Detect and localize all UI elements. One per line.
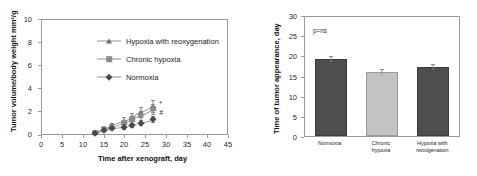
figure-container: Tumor volume/body weight mm³/g 10 8 6 4 … [0,0,477,176]
diamond-marker-icon [109,125,115,131]
error-bar [124,117,125,124]
right-plot-area: p=ns [304,16,460,137]
left-x-tick-30: 30 [156,141,176,149]
series-line-segment [132,112,141,118]
error-bar-cap [329,56,333,57]
error-bar [103,128,104,130]
significance-marker-hash: # [159,109,163,116]
error-bar-cap [139,117,143,118]
error-bar-cap [110,125,114,126]
left-x-tickmark [166,135,167,138]
series-line-segment [112,123,125,128]
error-bar [433,64,434,71]
left-x-tick-10: 10 [73,141,93,149]
error-bar [382,69,383,75]
series-line-segment [112,121,125,126]
left-x-tick-20: 20 [114,141,134,149]
legend-item-chronic-hypoxia: Chronic hypoxia [97,50,219,68]
error-bar-cap [151,116,155,117]
left-x-tick-0: 0 [31,141,51,149]
error-bar-cap [102,128,106,129]
square-marker-icon [130,116,136,122]
error-bar-cap [151,100,155,101]
error-bar-cap [431,64,435,65]
error-bar-cap [130,123,134,124]
left-plot-area: Hypoxia with reoxygenation Chronic hypox… [41,19,228,135]
left-x-tick-25: 25 [135,141,155,149]
left-x-tick-45: 45 [218,141,238,149]
square-marker-icon [121,120,127,126]
series-line-segment [95,129,104,133]
diamond-marker-icon [137,119,143,125]
diamond-marker-icon [92,129,98,135]
error-bar-cap [102,131,106,132]
series-line-segment [95,129,104,133]
triangle-marker-icon [101,127,107,132]
left-x-tick-35: 35 [177,141,197,149]
square-marker-icon [109,124,115,130]
error-bar [111,125,112,129]
error-bar [111,127,112,130]
bar-label-hypoxia-reoxigenation: Hypoxia with reoxigenation [406,140,458,154]
left-x-tickmark [228,135,229,138]
triangle-marker-icon [150,104,156,109]
error-bar-cap [130,113,134,114]
error-bar-cap [102,131,106,132]
error-bar-cap [102,131,106,132]
left-y-tick-2: 2 [14,108,32,116]
diamond-marker-icon [97,73,121,81]
triangle-marker-icon [138,109,144,114]
error-bar [111,123,112,128]
triangle-marker-icon [129,115,135,120]
error-bar [103,128,104,131]
legend-label: Hypoxia with reoxygenation [126,37,219,46]
diamond-marker-icon [150,116,156,122]
left-y-tick-0: 0 [14,131,32,139]
left-x-tickmark [145,135,146,138]
left-x-tickmark [83,135,84,138]
legend-label: Chronic hypoxia [126,55,180,64]
right-y-tick-30: 30 [277,13,297,21]
error-bar [132,116,133,123]
square-marker-icon [150,106,156,112]
left-y-tick-4: 4 [14,85,32,93]
bar-label-chronic-hypoxia: Chronic hypoxia [355,140,407,154]
right-y-tick-20: 20 [277,53,297,61]
right-y-tick-5: 5 [277,114,297,122]
square-marker-icon [97,55,121,63]
error-bar [95,132,96,134]
error-bar [103,129,104,131]
bar [366,72,398,136]
error-bar [95,132,96,133]
error-bar [140,120,141,125]
left-x-axis-title: Time after xenograft, day [98,155,187,163]
p-value-annotation: p=ns [313,27,327,34]
error-bar-cap [122,125,126,126]
right-y-tickmark [301,137,304,138]
diamond-marker-icon [100,126,106,132]
error-bar-cap [93,133,97,134]
square-marker-icon [93,130,99,136]
bar [417,67,449,136]
error-bar [132,123,133,127]
error-bar-cap [130,123,134,124]
error-bar-cap [139,120,143,121]
error-bar [132,113,133,121]
error-bar-cap [122,124,126,125]
series-line-segment [104,127,113,130]
error-bar-cap [110,123,114,124]
significance-marker-star: * [159,100,162,107]
error-bar [330,56,331,62]
error-bar-cap [139,125,143,126]
left-x-tick-15: 15 [94,141,114,149]
error-bar-cap [380,69,384,70]
error-bar-cap [110,129,114,130]
left-x-tickmark [41,135,42,138]
error-bar-cap [93,133,97,134]
series-line-segment [141,119,154,123]
error-bar-cap [102,129,106,130]
error-bar-cap [151,122,155,123]
error-bar [95,131,96,133]
error-bar [140,107,141,117]
series-line-segment [124,125,132,128]
